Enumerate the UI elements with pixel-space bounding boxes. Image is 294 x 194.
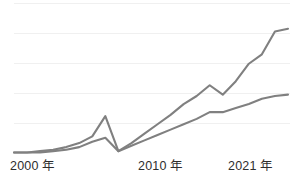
x-tick-label-unit: 年 [170, 159, 183, 173]
x-tick-label-year: 2021 [228, 159, 257, 173]
x-tick-label-2021: 2021年 [228, 158, 273, 174]
x-tick-label-year: 2000 [10, 159, 39, 173]
line-chart: 2000年 2010年 2021年 [0, 0, 294, 194]
x-tick-label-2010: 2010年 [138, 158, 183, 174]
x-tick-label-unit: 年 [42, 159, 55, 173]
x-tick-label-unit: 年 [260, 159, 273, 173]
x-axis-tick-labels: 2000年 2010年 2021年 [0, 158, 294, 182]
x-tick-label-year: 2010 [138, 159, 167, 173]
x-tick-label-2000: 2000年 [10, 158, 55, 174]
data-line-upper-series [14, 29, 288, 153]
